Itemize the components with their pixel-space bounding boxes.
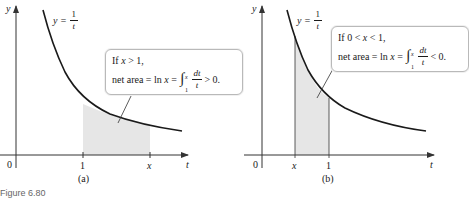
x-axis-label-b: t [430,160,433,170]
fraction-denominator: t [316,22,319,31]
tick-label-x-a: x [147,161,151,171]
fraction-numerator: 1 [71,10,76,19]
caption-a: (a) [78,174,89,184]
lower-limit: 1 [185,84,188,97]
integrand-numerator: dt [419,46,426,55]
formula-equals: = [171,73,177,86]
callout-condition-b: If 0 < x < 1, [338,31,462,44]
callout-formula-b: net area = ln x = ∫ x 1 dt t < 0. [338,46,462,67]
integral-limits: x 1 [185,71,188,89]
integral-sign-icon: ∫ [180,71,184,86]
figure-label: Figure 6.80 [0,188,46,198]
integrand-denominator: t [196,81,199,90]
integral-sign-icon: ∫ [406,48,410,63]
caption-b: (b) [322,174,334,184]
fraction-denominator: t [72,22,75,31]
integral-limits: x 1 [411,48,414,66]
y-axis-label-b: y [252,4,256,14]
callout-condition-a: If x > 1, [112,54,236,67]
condition-rest: > 1, [128,55,144,66]
tick-label-x-b: x [292,161,296,171]
shaded-area-b [295,36,329,155]
integrand-fraction: dt t [192,69,202,90]
callout-box-b: If 0 < x < 1, net area = ln x = ∫ x 1 dt… [331,26,469,72]
formula-var: x [164,73,168,86]
curve-label-lhs-a: y = [53,15,67,26]
curve-label-fraction-a: 1 t [70,10,78,31]
fraction-numerator: 1 [315,10,320,19]
formula-equals: = [397,50,403,63]
curve-label-a: y = 1 t [53,10,78,31]
integrand-numerator: dt [193,69,200,78]
origin-label-b: 0 [253,160,258,170]
curve-label-b: y = 1 t [297,10,322,31]
curve-label-lhs-b: y = [297,15,311,26]
condition-text: If [112,55,119,66]
tick-label-1-a: 1 [80,161,85,171]
origin-label-a: 0 [7,160,12,170]
condition-var: x [363,32,367,43]
integrand-denominator: t [422,58,425,67]
formula-prefix: net area = ln [338,50,388,63]
callout-formula-a: net area = ln x = ∫ x 1 dt t > 0. [112,69,236,90]
formula-prefix: net area = ln [112,73,162,86]
condition-rest: < 1, [370,32,386,43]
formula-var: x [390,50,394,63]
callout-box-a: If x > 1, net area = ln x = ∫ x 1 dt t >… [105,49,243,95]
formula-suffix: < 0. [430,50,446,63]
tick-label-1-b: 1 [326,161,331,171]
condition-var: x [121,55,125,66]
integrand-fraction: dt t [418,46,428,67]
y-axis-label-a: y [6,4,10,14]
shaded-area-a [83,104,150,155]
x-axis-label-a: t [186,160,189,170]
formula-suffix: > 0. [204,73,220,86]
curve-label-fraction-b: 1 t [314,10,322,31]
upper-limit: x [185,71,188,84]
lower-limit: 1 [411,61,414,74]
upper-limit: x [411,48,414,61]
condition-text: If 0 < [338,32,360,43]
